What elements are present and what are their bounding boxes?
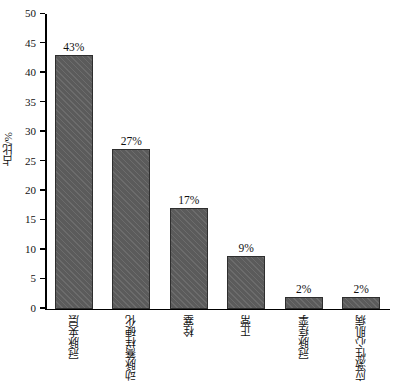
x-axis-tick-label: 动脉簥样硬化 [125,315,137,381]
y-axis-tick: 50 [40,13,45,15]
bar-value-label: 27% [121,135,142,147]
y-axis-tick-label: 5 [31,273,37,284]
bar-value-label: 2% [354,283,369,295]
y-axis-tick: 0 [40,307,45,309]
bar-value-label: 17% [178,194,199,206]
y-axis-tick: 25 [40,160,45,162]
y-axis-title: 占比/% [2,132,16,166]
bar-value-label: 2% [296,283,311,295]
y-axis-tick-label: 50 [25,8,36,19]
y-axis-tick: 30 [40,130,45,132]
bar[interactable]: 27% [112,149,150,308]
x-axis-tick-label: 冠脉痉挛 [298,315,310,359]
x-axis-tick-label: 正常 [240,315,252,337]
x-axis-tick-label: 栓塞 [183,315,195,337]
bar[interactable]: 2% [285,297,323,309]
bar[interactable]: 17% [170,208,208,308]
y-axis-tick: 5 [40,278,45,280]
y-axis-tick-label: 15 [25,214,36,225]
plot-area: 05101520253035404550 43%27%17%9%2%2% [45,14,390,310]
y-axis-tick: 10 [40,248,45,250]
bar[interactable]: 43% [55,55,93,308]
x-axis-tick-label: 冠脉夹层 [68,315,80,359]
y-axis-tick-label: 30 [25,126,36,137]
y-axis-tick-label: 45 [25,37,36,48]
y-axis-tick-label: 10 [25,243,36,254]
bar-value-label: 43% [63,41,84,53]
y-axis-tick: 20 [40,189,45,191]
y-axis-tick-label: 40 [25,67,36,78]
bar-value-label: 9% [239,242,254,254]
y-axis-tick-label: 20 [25,184,36,195]
y-axis-tick: 45 [40,42,45,44]
y-axis-line [45,14,47,310]
x-axis-line [45,309,390,311]
bar[interactable]: 9% [227,256,265,309]
y-axis-tick-label: 35 [25,96,36,107]
y-axis-tick: 15 [40,219,45,221]
bar[interactable]: 2% [342,297,380,309]
y-axis-tick-label: 25 [25,155,36,166]
x-axis-tick-label: 应激性心肌病 [355,315,367,381]
y-axis-tick: 35 [40,101,45,103]
y-axis-tick: 40 [40,71,45,73]
y-axis-tick-label: 0 [31,302,37,313]
bar-chart: 占比/% 05101520253035404550 43%27%17%9%2%2… [0,0,398,391]
